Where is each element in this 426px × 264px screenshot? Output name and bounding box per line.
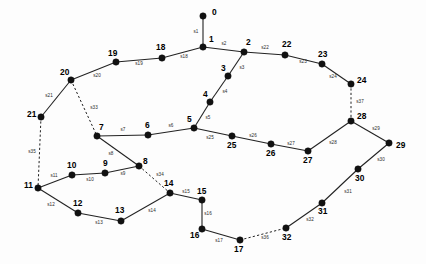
- graph-edge-s28: [308, 121, 351, 151]
- edge-label-s11: s11: [50, 173, 58, 178]
- node-label-7: 7: [99, 122, 104, 132]
- graph-node-16: [199, 226, 205, 232]
- edge-label-s34: s34: [156, 172, 164, 177]
- graph-edge-s30: [358, 143, 389, 169]
- graph-edge-s31: [322, 169, 358, 203]
- edge-label-s37: s37: [356, 99, 364, 104]
- node-labels-layer: 0123456789101112131415161718192021222324…: [24, 7, 406, 254]
- edge-label-s9: s9: [121, 171, 126, 176]
- graph-node-2: [241, 49, 247, 55]
- node-label-13: 13: [115, 205, 125, 215]
- node-label-14: 14: [164, 178, 174, 188]
- edge-label-s2: s2: [222, 41, 227, 46]
- graph-node-1: [200, 44, 206, 50]
- graph-node-6: [145, 132, 151, 138]
- node-label-8: 8: [143, 156, 148, 166]
- edge-label-s13: s13: [95, 220, 103, 225]
- node-label-2: 2: [246, 37, 251, 47]
- nodes-layer: [35, 13, 392, 243]
- graph-node-30: [355, 166, 361, 172]
- node-label-11: 11: [24, 180, 33, 190]
- graph-edge-s35: [38, 117, 41, 188]
- node-label-12: 12: [73, 198, 83, 208]
- edge-label-s6: s6: [169, 123, 174, 128]
- graph-edge-s32: [286, 203, 322, 228]
- node-label-10: 10: [67, 160, 77, 170]
- node-label-1: 1: [209, 34, 214, 44]
- graph-canvas: s1s2s3s4s5s6s7s8s9s10s11s12s13s14s15s16s…: [0, 0, 426, 264]
- graph-node-9: [102, 170, 108, 176]
- edge-label-s5: s5: [206, 115, 211, 120]
- edge-label-s28: s28: [329, 140, 337, 145]
- graph-node-15: [199, 197, 205, 203]
- graph-node-3: [225, 73, 231, 79]
- graph-node-26: [268, 141, 274, 147]
- graph-node-11: [35, 185, 41, 191]
- edge-label-s24: s24: [329, 74, 337, 79]
- edges-layer: [38, 16, 389, 240]
- graph-node-24: [348, 81, 354, 87]
- node-label-31: 31: [318, 206, 328, 216]
- edge-label-s3: s3: [240, 65, 245, 70]
- node-label-32: 32: [282, 232, 292, 242]
- node-label-3: 3: [221, 63, 226, 73]
- edge-label-s21: s21: [45, 93, 53, 98]
- graph-node-14: [167, 190, 173, 196]
- graph-edge-s14: [121, 193, 170, 221]
- graph-node-20: [68, 77, 74, 83]
- edge-labels-layer: s1s2s3s4s5s6s7s8s9s10s11s12s13s14s15s16s…: [28, 29, 385, 243]
- node-label-23: 23: [318, 49, 328, 59]
- edge-label-s25: s25: [206, 135, 214, 140]
- edge-label-s27: s27: [287, 141, 295, 146]
- edge-label-s8: s8: [109, 151, 114, 156]
- edge-label-s23: s23: [299, 59, 307, 64]
- node-label-19: 19: [108, 48, 118, 58]
- edge-label-s29: s29: [372, 126, 380, 131]
- node-label-26: 26: [266, 148, 276, 158]
- edge-label-s32: s32: [306, 217, 314, 222]
- edge-label-s1: s1: [194, 29, 199, 34]
- edge-label-s30: s30: [377, 157, 385, 162]
- edge-label-s33: s33: [90, 105, 98, 110]
- node-label-15: 15: [197, 186, 207, 196]
- edge-label-s17: s17: [215, 238, 223, 243]
- graph-node-13: [118, 218, 124, 224]
- node-label-6: 6: [145, 120, 150, 130]
- edge-label-s4: s4: [223, 89, 228, 94]
- edge-label-s7: s7: [121, 127, 126, 132]
- edge-label-s18: s18: [180, 54, 188, 59]
- edge-label-s35: s35: [28, 149, 36, 154]
- edge-label-s14: s14: [148, 208, 156, 213]
- graph-node-29: [386, 140, 392, 146]
- graph-node-17: [237, 237, 243, 243]
- graph-node-27: [305, 148, 311, 154]
- node-label-29: 29: [396, 140, 406, 150]
- graph-edge-s29: [351, 121, 389, 143]
- node-label-28: 28: [357, 111, 367, 121]
- graph-node-22: [282, 52, 288, 58]
- graph-edge-s7: [97, 135, 148, 136]
- node-label-0: 0: [212, 7, 217, 17]
- node-label-30: 30: [355, 173, 365, 183]
- edge-label-s36: s36: [261, 235, 269, 240]
- node-label-27: 27: [303, 155, 313, 165]
- graph-node-0: [200, 13, 206, 19]
- edge-label-s20: s20: [93, 73, 101, 78]
- edge-label-s31: s31: [344, 189, 352, 194]
- graph-node-12: [75, 210, 81, 216]
- node-label-21: 21: [27, 109, 37, 119]
- graph-node-23: [319, 61, 325, 67]
- node-label-5: 5: [187, 114, 192, 124]
- graph-edge-s12: [38, 188, 78, 213]
- edge-label-s26: s26: [249, 133, 257, 138]
- edge-label-s10: s10: [86, 177, 94, 182]
- edge-label-s19: s19: [135, 61, 143, 66]
- node-label-22: 22: [282, 39, 292, 49]
- graph-node-21: [38, 114, 44, 120]
- node-label-16: 16: [190, 230, 200, 240]
- node-label-17: 17: [234, 244, 244, 254]
- graph-node-7: [94, 133, 100, 139]
- graph-edge-s21: [41, 80, 71, 117]
- graph-node-4: [207, 99, 213, 105]
- graph-diagram-root: s1s2s3s4s5s6s7s8s9s10s11s12s13s14s15s16s…: [0, 0, 426, 264]
